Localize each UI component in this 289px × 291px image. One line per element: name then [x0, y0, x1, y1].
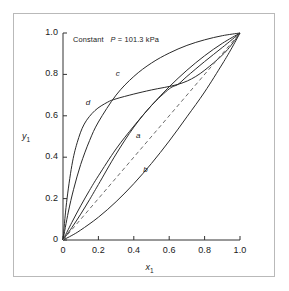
y-tick-label-4: 0.8: [36, 68, 58, 78]
x-axis-title: x1: [146, 262, 154, 274]
y-axis-ticks: [63, 33, 67, 240]
curve-label-d: d: [86, 98, 90, 107]
x-tick-label-4: 0.8: [197, 245, 213, 255]
x-tick-label-5: 1.0: [232, 245, 248, 255]
x-tick-label-1: 0.2: [90, 245, 106, 255]
x-axis-ticks: [63, 236, 240, 240]
curve-label-c: c: [116, 69, 120, 78]
y-tick-label-2: 0.4: [36, 151, 58, 161]
y-tick-label-3: 0.6: [36, 110, 58, 120]
curve-label-b: b: [143, 165, 147, 174]
annotation-pressure-value: = 101.3 kPa: [118, 35, 159, 44]
y-axis-title-subscript: 1: [27, 135, 31, 142]
x-tick-label-2: 0.4: [126, 245, 142, 255]
figure-container: Constant P = 101.3 kPa 00.20.40.60.81.0 …: [0, 0, 289, 291]
x-axis-title-subscript: 1: [150, 267, 154, 274]
reference-diagonal-line: [63, 33, 240, 240]
y-tick-label-5: 1.0: [36, 27, 58, 37]
annotation-pressure-symbol: P: [110, 35, 115, 44]
y-tick-label-1: 0.2: [36, 193, 58, 203]
y-axis-title: y1: [22, 131, 30, 143]
curve-label-a: a: [136, 131, 140, 140]
y-tick-label-0: 0: [36, 234, 58, 244]
reference-diagonal: [63, 33, 240, 240]
x-tick-label-3: 0.6: [161, 245, 177, 255]
x-tick-label-0: 0: [55, 245, 71, 255]
constant-pressure-annotation: Constant P = 101.3 kPa: [73, 35, 159, 44]
annotation-prefix: Constant: [73, 35, 104, 44]
